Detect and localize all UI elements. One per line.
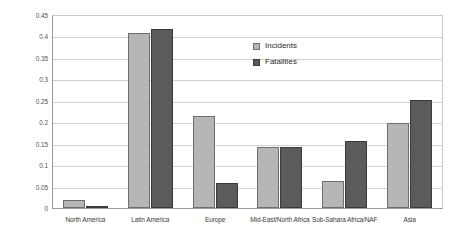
chart-legend: IncidentsFatalities bbox=[253, 41, 297, 67]
y-axis-tick-label: 0 bbox=[8, 205, 48, 212]
bar-group bbox=[377, 15, 442, 208]
bar-incidents bbox=[193, 116, 215, 208]
bar-fatalities bbox=[86, 206, 108, 208]
y-axis-tick-label: 0.15 bbox=[8, 140, 48, 147]
bar-group bbox=[118, 15, 183, 208]
bar-group bbox=[312, 15, 377, 208]
bar-fatalities bbox=[345, 141, 367, 208]
legend-label: Fatalities bbox=[265, 57, 297, 67]
bar-fatalities bbox=[410, 100, 432, 208]
bar-incidents bbox=[322, 181, 344, 208]
x-axis-tick-label: Latin America bbox=[131, 216, 169, 223]
y-axis-tick-label: 0.45 bbox=[8, 12, 48, 19]
y-axis-tick-label: 0.1 bbox=[8, 162, 48, 169]
x-axis-tick-label: Sub-Sahara Africa/NAF bbox=[312, 216, 377, 223]
y-axis-tick-label: 0.3 bbox=[8, 76, 48, 83]
y-axis-tick-label: 0.2 bbox=[8, 119, 48, 126]
x-axis-tick-label: Asia bbox=[403, 216, 415, 223]
bar-incidents bbox=[63, 200, 85, 208]
bar-incidents bbox=[128, 33, 150, 208]
legend-item: Incidents bbox=[253, 41, 297, 51]
x-axis-tick-label: North America bbox=[65, 216, 105, 223]
bars-layer bbox=[53, 15, 442, 208]
bar-fatalities bbox=[216, 183, 238, 208]
x-axis-tick-label: Europe bbox=[205, 216, 225, 223]
bar-fatalities bbox=[151, 29, 173, 208]
y-axis-tick-label: 0.05 bbox=[8, 183, 48, 190]
legend-swatch-icon bbox=[253, 59, 260, 66]
y-axis-tick-label: 0.35 bbox=[8, 54, 48, 61]
y-axis-tick-label: 0.4 bbox=[8, 33, 48, 40]
bar-group bbox=[53, 15, 118, 208]
legend-label: Incidents bbox=[265, 41, 297, 51]
bar-group bbox=[183, 15, 248, 208]
x-axis-tick-label: Mid-East/North Africa bbox=[250, 216, 309, 223]
legend-item: Fatalities bbox=[253, 57, 297, 67]
y-axis-tick-label: 0.25 bbox=[8, 97, 48, 104]
bar-incidents bbox=[257, 147, 279, 208]
bar-chart: 0.450.40.350.30.250.20.150.10.050 North … bbox=[0, 0, 462, 243]
bar-incidents bbox=[387, 123, 409, 208]
bar-fatalities bbox=[280, 147, 302, 208]
legend-swatch-icon bbox=[253, 43, 260, 50]
